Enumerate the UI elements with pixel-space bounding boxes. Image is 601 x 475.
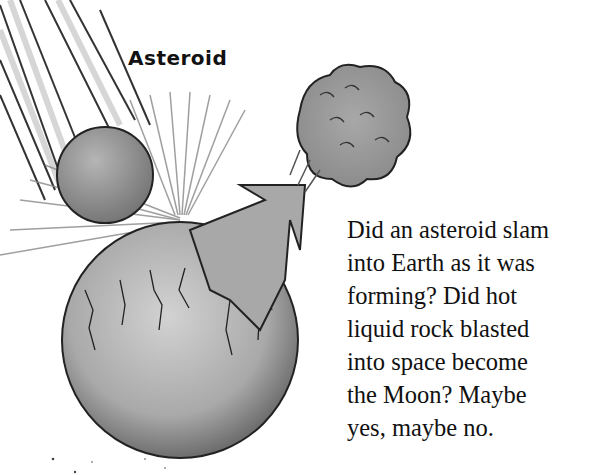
asteroid-label: Asteroid <box>128 46 227 70</box>
speckles <box>52 458 166 473</box>
caption-line: yes, maybe no. <box>347 411 601 444</box>
caption-text: Did an asteroid slam into Earth as it wa… <box>347 213 601 444</box>
caption-line: liquid rock blasted <box>347 312 601 345</box>
caption-line: the Moon? Maybe <box>347 378 601 411</box>
moon-debris-cloud <box>290 65 410 192</box>
caption-line: forming? Did hot <box>347 279 601 312</box>
caption-line: into space become <box>347 345 601 378</box>
caption-line: into Earth as it was <box>347 246 601 279</box>
asteroid <box>57 127 153 223</box>
caption-line: Did an asteroid slam <box>347 213 601 246</box>
